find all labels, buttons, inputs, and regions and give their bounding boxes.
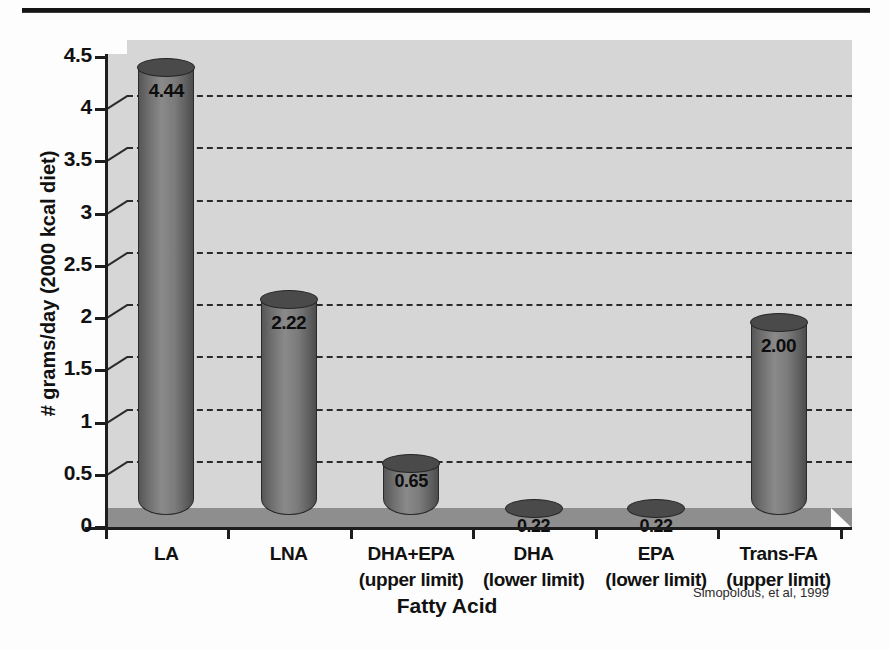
bar-top-ellipse: [750, 313, 808, 332]
gridline: [127, 409, 852, 411]
x-tick: [350, 527, 353, 539]
y-axis-title: # grams/day (2000 kcal diet): [37, 84, 60, 484]
gridline: [127, 356, 852, 358]
plot-floor-3d: [105, 508, 852, 528]
y-tick-label: 4.5: [36, 43, 92, 67]
y-tick: [95, 265, 106, 268]
x-tick: [105, 527, 108, 539]
x-category-label: LNA: [219, 541, 357, 567]
y-tick: [95, 56, 106, 59]
x-tick: [840, 527, 843, 539]
x-category-name: LNA: [270, 543, 308, 564]
gridline: [127, 252, 852, 254]
x-category-name: LA: [154, 543, 179, 564]
y-tick: [95, 108, 106, 111]
y-tick: [95, 369, 106, 372]
x-category-name: DHA: [514, 543, 554, 564]
x-tick: [472, 527, 475, 539]
bar-trans-fa: 2.00: [751, 313, 807, 515]
x-category-name: EPA: [638, 543, 674, 564]
gridline: [127, 461, 852, 463]
x-category-label: DHA(lower limit): [464, 541, 602, 593]
plot-area-background: [105, 40, 852, 513]
bar-top-ellipse: [260, 290, 318, 309]
bar-chart-figure: 4.442.220.650.220.222.00 00.511.522.533.…: [0, 0, 889, 650]
gridline: [127, 304, 852, 306]
x-tick: [227, 527, 230, 539]
bar-lna: 2.22: [261, 290, 317, 515]
x-category-name: DHA+EPA: [368, 543, 455, 564]
bar-body: [138, 67, 194, 515]
y-tick-label: 0: [36, 513, 92, 537]
bar-epa: 0.22: [628, 499, 684, 515]
bar-value-label: 2.00: [751, 335, 807, 357]
gridline: [127, 95, 852, 97]
x-category-label: DHA+EPA(upper limit): [342, 541, 480, 593]
x-tick: [717, 527, 720, 539]
x-tick: [595, 527, 598, 539]
plot-wall-corner-notch: [105, 40, 127, 54]
bar-value-label: 2.22: [261, 312, 317, 334]
bar-value-label: 0.65: [383, 471, 439, 492]
x-category-sublabel: (upper limit): [342, 567, 480, 593]
y-tick: [95, 474, 106, 477]
bar-dha: 0.22: [506, 499, 562, 515]
x-axis-title: Fatty Acid: [287, 594, 607, 618]
y-tick: [95, 160, 106, 163]
gridline: [127, 200, 852, 202]
bar-value-label: 4.44: [138, 80, 194, 102]
y-tick: [95, 317, 106, 320]
y-tick: [95, 422, 106, 425]
bar-la: 4.44: [138, 58, 194, 515]
x-category-name: Trans-FA: [739, 543, 817, 564]
y-tick: [95, 213, 106, 216]
y-axis-line: [105, 54, 108, 529]
gridline: [127, 147, 852, 149]
citation-text: Simopolous, et al, 1999: [693, 585, 829, 600]
x-axis-line: [85, 527, 852, 530]
bar-dha-epa: 0.65: [383, 454, 439, 515]
x-category-label: LA: [97, 541, 235, 567]
page-canvas: 4.442.220.650.220.222.00 00.511.522.533.…: [0, 0, 889, 650]
x-category-sublabel: (lower limit): [464, 567, 602, 593]
